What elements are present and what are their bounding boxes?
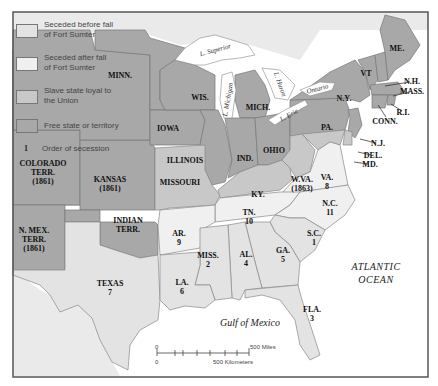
order-sc: 1 xyxy=(312,238,316,247)
label-tn: TN. xyxy=(242,208,255,217)
label-colorado-line2: TERR. xyxy=(31,168,55,177)
label-vt: VT xyxy=(360,69,372,78)
label-va: VA. xyxy=(321,173,334,182)
state-connecticut xyxy=(372,95,388,108)
legend-label-line2: of Fort Sumter xyxy=(44,63,106,73)
label-nmex-year: (1861) xyxy=(23,244,45,253)
label-illinois: ILLINOIS xyxy=(167,156,204,165)
legend-item-seceded-before: Seceded before fall of Fort Sumter xyxy=(16,20,140,48)
label-md: MD. xyxy=(362,160,377,169)
label-miss: MISS. xyxy=(197,251,219,260)
order-al: 4 xyxy=(244,259,248,268)
order-tn: 10 xyxy=(245,217,253,226)
label-ga: GA. xyxy=(276,246,290,255)
legend-item-slave-loyal: Slave state loyal to the Union xyxy=(16,86,140,114)
legend-order-symbol: 1 xyxy=(16,144,36,153)
legend-item-free: Free state or territory xyxy=(16,119,140,139)
label-al: AL. xyxy=(239,250,252,259)
legend-order-label: Order of secession xyxy=(42,144,109,154)
scale-km-label: 500 Kilometers xyxy=(213,359,253,365)
label-nj: N.J. xyxy=(371,139,385,148)
label-colorado-year: (1861) xyxy=(32,177,54,186)
label-ri: R.I. xyxy=(397,108,410,117)
order-texas: 7 xyxy=(108,288,112,297)
legend-label-line2: the Union xyxy=(44,96,111,106)
label-atlantic: ATLANTIC xyxy=(350,261,400,272)
legend-swatch-seceded-after xyxy=(16,57,38,71)
order-va: 8 xyxy=(325,182,329,191)
order-nc: 11 xyxy=(326,208,334,217)
label-indian-line2: TERR. xyxy=(116,225,140,234)
label-pa: PA. xyxy=(321,123,333,132)
label-ocean: OCEAN xyxy=(358,274,394,285)
scale-miles-label: 500 Miles xyxy=(250,344,276,350)
order-fla: 3 xyxy=(310,314,314,323)
label-kansas-year: (1861) xyxy=(99,184,121,193)
legend-label-line2: of Fort Sumter xyxy=(44,30,113,40)
label-missouri: MISSOURI xyxy=(160,178,200,187)
label-wva: W.VA. xyxy=(291,175,313,184)
legend-item-order: 1 Order of secession xyxy=(16,144,140,158)
legend-item-seceded-after: Seceded after fall of Fort Sumter xyxy=(16,53,140,81)
map-legend: Seceded before fall of Fort Sumter Seced… xyxy=(16,20,140,163)
legend-label: Slave state loyal to xyxy=(44,86,111,96)
label-fla: FLA. xyxy=(303,305,321,314)
legend-label: Seceded after fall xyxy=(44,53,106,63)
state-delaware xyxy=(343,130,352,145)
label-indian: INDIAN xyxy=(113,216,143,225)
label-kansas: KANSAS xyxy=(94,175,127,184)
label-nmex-line2: TERR. xyxy=(22,235,46,244)
legend-swatch-slave-loyal xyxy=(16,90,38,104)
order-ar: 9 xyxy=(177,238,181,247)
label-conn: CONN. xyxy=(372,117,398,126)
order-ga: 5 xyxy=(281,255,285,264)
label-sc: S.C. xyxy=(307,229,321,238)
label-ohio: OHIO xyxy=(263,146,285,155)
label-gulf-of-mexico: Gulf of Mexico xyxy=(220,317,280,328)
label-la: LA. xyxy=(175,278,188,287)
label-wva-year: (1863) xyxy=(291,184,313,193)
state-rhode-island xyxy=(387,95,396,105)
label-ny: N.Y. xyxy=(337,94,352,103)
label-iowa: IOWA xyxy=(157,124,179,133)
label-wis: WIS. xyxy=(191,93,209,102)
label-mich: MICH. xyxy=(246,103,271,112)
label-me: ME. xyxy=(390,44,405,53)
label-nh: N.H. xyxy=(404,77,420,86)
label-ar: AR. xyxy=(172,229,186,238)
label-ind: IND. xyxy=(237,154,254,163)
label-mass: MASS. xyxy=(400,87,424,96)
legend-swatch-seceded-before xyxy=(16,24,38,38)
label-texas: TEXAS xyxy=(97,279,124,288)
legend-label: Seceded before fall xyxy=(44,20,113,30)
label-nc: N.C. xyxy=(322,199,338,208)
legend-swatch-free xyxy=(16,119,38,133)
label-del: DEL. xyxy=(364,151,382,160)
label-ky: KY. xyxy=(251,190,264,199)
order-miss: 2 xyxy=(206,260,210,269)
order-la: 6 xyxy=(180,287,184,296)
label-nmex: N. MEX. xyxy=(19,226,49,235)
legend-label: Free state or territory xyxy=(44,121,119,131)
